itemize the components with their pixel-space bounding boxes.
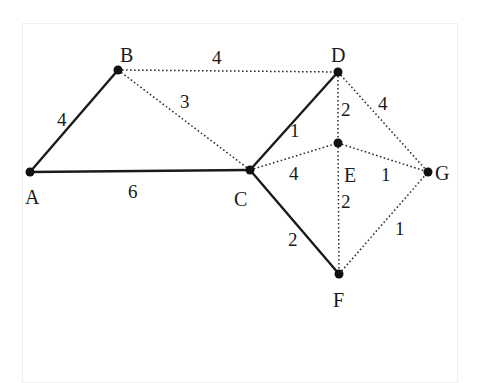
edge-weight-a-b: 4 (57, 109, 67, 130)
node-label-e: E (344, 164, 356, 186)
edge-weight-f-g: 1 (395, 218, 405, 239)
node-label-c: C (234, 188, 247, 210)
edge-weight-e-g: 1 (381, 164, 391, 185)
edge-weight-d-e: 2 (341, 99, 351, 120)
edge-a-c (30, 170, 250, 172)
node-a (26, 168, 35, 177)
node-c (246, 166, 255, 175)
edges-layer (30, 70, 428, 274)
edge-weight-b-d: 4 (212, 47, 222, 68)
node-d (334, 68, 343, 77)
edge-weight-c-d: 1 (290, 120, 300, 141)
node-label-f: F (333, 289, 344, 311)
edge-weight-c-e: 4 (289, 163, 299, 184)
node-g (424, 168, 433, 177)
edge-e-f (338, 143, 339, 274)
edge-weight-a-c: 6 (128, 181, 138, 202)
edge-d-g (338, 72, 428, 172)
edge-f-g (339, 172, 428, 274)
edge-weight-d-g: 4 (378, 93, 388, 114)
edge-weight-b-c: 3 (180, 91, 190, 112)
node-b (114, 66, 123, 75)
edge-b-d (118, 70, 338, 72)
edge-weight-e-f: 2 (341, 191, 351, 212)
edge-weight-c-f: 2 (288, 229, 298, 250)
node-label-a: A (25, 186, 40, 208)
edge-b-c (118, 70, 250, 170)
node-label-g: G (435, 162, 449, 184)
edge-c-f (250, 170, 339, 274)
node-f (335, 270, 344, 279)
node-label-d: D (331, 44, 345, 66)
node-e (334, 139, 343, 148)
edge-a-b (30, 70, 118, 172)
node-label-b: B (120, 44, 133, 66)
edge-weights-layer: 461243244121 (57, 47, 405, 250)
